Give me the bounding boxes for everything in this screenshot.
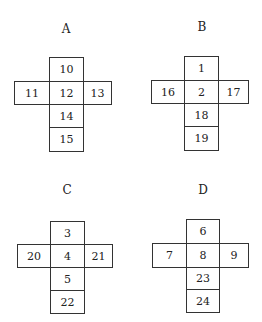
face-number: 7	[166, 249, 173, 262]
face-below-2: 15	[49, 127, 84, 152]
face-number: 15	[60, 133, 74, 146]
face-number: 14	[60, 110, 74, 123]
face-top: 1	[184, 56, 219, 81]
face-number: 22	[61, 296, 75, 309]
net-title: A	[62, 22, 71, 36]
face-number: 24	[196, 295, 210, 308]
face-number: 12	[60, 87, 74, 100]
face-number: 2	[198, 86, 205, 99]
face-center: 2	[184, 80, 219, 104]
face-right: 9	[219, 243, 249, 268]
face-left: 7	[152, 243, 187, 268]
face-below-2: 22	[50, 290, 85, 314]
face-left: 16	[151, 80, 185, 104]
face-left: 20	[17, 244, 51, 268]
face-number: 17	[227, 86, 241, 99]
face-number: 18	[195, 109, 209, 122]
face-top: 6	[186, 219, 220, 244]
face-below-1: 14	[49, 104, 84, 128]
face-number: 6	[200, 225, 207, 238]
face-number: 5	[64, 273, 71, 286]
face-right: 21	[84, 244, 113, 268]
face-number: 8	[200, 249, 207, 262]
face-below-2: 19	[184, 126, 219, 151]
face-number: 19	[195, 132, 209, 145]
face-center: 12	[49, 81, 84, 105]
face-below-1: 18	[184, 103, 219, 127]
face-number: 3	[64, 227, 71, 240]
face-number: 9	[231, 249, 238, 262]
face-number: 16	[161, 86, 175, 99]
net-title: D	[198, 183, 208, 197]
face-center: 8	[186, 243, 220, 268]
net-title: B	[198, 20, 207, 34]
face-number: 23	[196, 272, 210, 285]
face-top: 10	[49, 57, 84, 82]
face-number: 1	[198, 62, 205, 75]
face-top: 3	[50, 221, 85, 245]
face-right: 13	[83, 81, 112, 105]
face-number: 21	[92, 250, 106, 263]
face-number: 11	[25, 87, 39, 100]
face-below-2: 24	[186, 289, 220, 313]
face-number: 4	[64, 250, 71, 263]
face-below-1: 23	[186, 267, 220, 290]
face-left: 11	[14, 81, 50, 105]
face-number: 20	[27, 250, 41, 263]
face-below-1: 5	[50, 267, 85, 291]
net-title: C	[62, 183, 71, 197]
face-number: 13	[91, 87, 105, 100]
face-number: 10	[60, 63, 74, 76]
face-right: 17	[218, 80, 249, 104]
face-center: 4	[50, 244, 85, 268]
